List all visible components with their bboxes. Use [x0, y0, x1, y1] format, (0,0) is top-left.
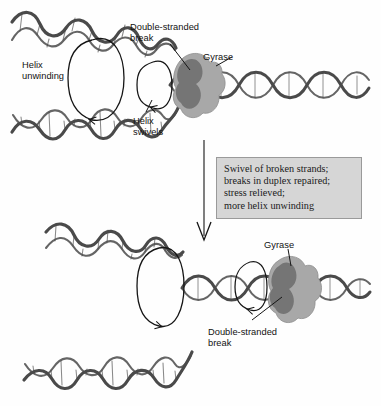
label-gyrase-bottom: Gyrase: [264, 240, 294, 251]
transition-summary-box: Swivel of broken strands; breaks in dupl…: [216, 157, 362, 219]
label-helix-swivels: Helix swivels: [133, 116, 163, 139]
label-gyrase-top: Gyrase: [203, 52, 233, 63]
label-double-stranded-break-top: Double-stranded break: [130, 22, 199, 45]
label-double-stranded-break-bottom: Double-stranded break: [208, 327, 277, 350]
label-helix-unwinding: Helix unwinding: [22, 60, 64, 83]
